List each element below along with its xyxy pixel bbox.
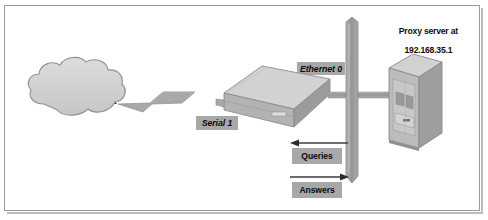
backbone-to-server-link: [356, 92, 389, 98]
cloud-icon: [28, 57, 125, 115]
cloud-to-router-link: [118, 92, 195, 112]
router-icon: [216, 66, 330, 127]
answers-arrow: [290, 173, 349, 180]
server-tower-icon: [389, 54, 442, 151]
queries-arrow: [290, 139, 348, 146]
network-backbone-icon: [346, 17, 358, 183]
network-diagram-page: To Internet Router Proxy server at 192.1…: [0, 0, 488, 220]
diagram-canvas: [0, 0, 488, 220]
